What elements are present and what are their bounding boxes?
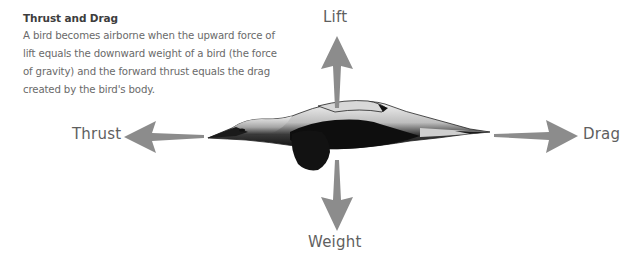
thrust-arrow-icon (124, 121, 204, 153)
lift-label: Lift (323, 8, 347, 26)
bird-illustration (207, 101, 490, 171)
weight-arrow-icon (321, 160, 353, 231)
weight-label: Weight (308, 233, 361, 251)
drag-arrow-icon (494, 120, 578, 153)
lift-arrow-icon (321, 36, 353, 108)
drag-label: Drag (583, 125, 620, 143)
thrust-label: Thrust (72, 125, 121, 143)
